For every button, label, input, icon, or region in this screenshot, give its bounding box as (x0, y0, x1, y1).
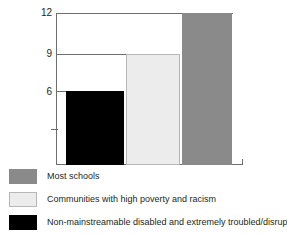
legend-item-non-mainstreamable: Non-mainstreamable disabled and extremel… (9, 214, 287, 231)
bar-chart-figure: 12 9 6 Most schools Communities with hig… (0, 0, 287, 236)
legend-swatch-most-schools (9, 169, 37, 184)
legend-swatch-non-mainstreamable (9, 215, 37, 230)
legend-item-high-poverty-racism: Communities with high poverty and racism (9, 191, 216, 208)
bar-non-mainstreamable (66, 91, 124, 165)
legend-label-high-poverty-racism: Communities with high poverty and racism (47, 194, 216, 205)
bar-high-poverty-racism (126, 54, 180, 165)
y-tick-label-9: 9 (30, 49, 52, 59)
y-axis-line (56, 13, 57, 165)
y-tick-label-12: 12 (30, 8, 52, 18)
x-axis-end-tick (242, 159, 243, 165)
bar-most-schools (182, 13, 232, 165)
y-tick-label-6: 6 (30, 87, 52, 97)
legend-item-most-schools: Most schools (9, 168, 100, 185)
plot-area: 12 9 6 (0, 0, 287, 170)
legend-swatch-high-poverty-racism (9, 192, 37, 207)
legend-label-non-mainstreamable: Non-mainstreamable disabled and extremel… (47, 217, 287, 228)
legend-label-most-schools: Most schools (47, 171, 100, 182)
